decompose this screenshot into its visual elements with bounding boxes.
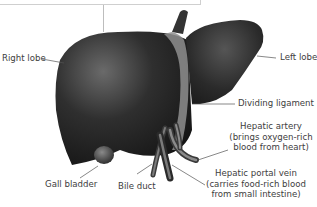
hepatic-portal-vein-title: Hepatic portal vein bbox=[200, 168, 312, 179]
hepatic-portal-vein-desc-1: (carries food-rich blood bbox=[200, 179, 312, 190]
label-hepatic-portal-vein: Hepatic portal vein (carries food-rich b… bbox=[200, 168, 312, 200]
left-lobe-shape bbox=[186, 20, 263, 104]
label-dividing-ligament: Dividing ligament bbox=[238, 98, 314, 109]
label-right-lobe: Right lobe bbox=[2, 53, 46, 64]
hepatic-artery-desc-1: (brings oxygen-rich bbox=[228, 132, 314, 143]
label-hepatic-artery: Hepatic artery (brings oxygen-rich blood… bbox=[228, 121, 314, 153]
right-lobe-shape bbox=[56, 32, 193, 166]
label-left-lobe: Left lobe bbox=[280, 52, 317, 63]
hepatic-artery-title: Hepatic artery bbox=[228, 121, 314, 132]
hepatic-portal-vein-desc-2: from small intestine) bbox=[200, 189, 312, 200]
vena-cava bbox=[172, 10, 188, 34]
label-bile-duct: Bile duct bbox=[118, 181, 156, 192]
gall-bladder-shape bbox=[94, 146, 114, 164]
label-gall-bladder: Gall bladder bbox=[45, 179, 97, 190]
hepatic-artery-desc-2: blood from heart) bbox=[228, 142, 314, 153]
